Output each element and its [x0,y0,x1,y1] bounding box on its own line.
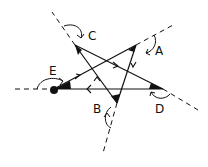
pentagram-diagram: C A E D B [0,0,208,167]
exterior-arc-b [105,107,111,128]
dashed-extensions [15,12,198,153]
exterior-angle-arcs [37,25,170,128]
start-point-dot [50,86,58,94]
extension-line-c [52,12,75,45]
vertex-label-e: E [49,64,57,78]
extension-line-d [163,89,198,110]
arrowhead-c [77,34,84,38]
arrow-e-a [75,74,80,79]
arrow-a-b [131,62,136,67]
arrowhead-b [104,113,110,117]
vertex-label-d: D [155,102,164,116]
direction-arrows [75,62,136,93]
vertex-label-a: A [155,44,164,58]
vertex-label-b: B [93,102,101,116]
vertex-label-c: C [88,29,96,43]
angle-wedge-d [149,83,163,89]
